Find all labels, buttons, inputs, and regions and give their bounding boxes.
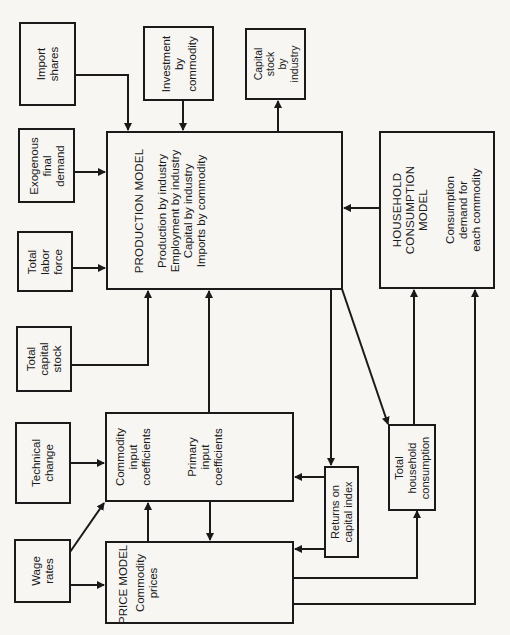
text-line: stock [264, 46, 276, 83]
label-exogenous: Exogenous final demand [27, 137, 66, 195]
box-total-labor-force: Total labor force [17, 231, 73, 292]
label-production-model: PRODUCTION MODEL Production by industry … [133, 148, 208, 273]
text-line: Capital by industry [182, 148, 195, 273]
edge-price-to-household [294, 290, 475, 604]
edge-capital-stock-to-production [71, 291, 148, 365]
text-line: by [172, 35, 185, 91]
text-line: final [40, 137, 53, 195]
label-investment: Investment by commodity [159, 35, 198, 91]
label-primary-input-coefficients: Primary input coefficients [186, 428, 225, 485]
text-line: Imports by commodity [195, 148, 208, 273]
box-price-model: PRICE MODEL Commodity prices [105, 541, 294, 624]
label-returns-on-capital: Returns on capital index [329, 481, 355, 542]
label-commodity-prices: Commodity prices [134, 553, 160, 611]
box-total-capital-stock: Total capital stock [16, 326, 72, 392]
text-line: Exogenous [27, 137, 40, 195]
text-line: Total [25, 342, 38, 375]
text-line: CONSUMPTION [404, 166, 417, 254]
box-total-household-consumption: Total household consumption [388, 424, 436, 511]
text-line: stock [51, 342, 64, 375]
label-capital-stock-by-industry: Capital stock by industry [252, 46, 300, 83]
text-line: coefficients [140, 428, 153, 486]
text-line: Consumption [444, 166, 457, 254]
text-line: Technical [30, 439, 43, 487]
price-model-title: PRICE MODEL [117, 545, 130, 624]
text-line: Primary [186, 428, 199, 485]
text-line: Import [35, 47, 48, 82]
text-line: consumption [419, 436, 432, 498]
box-production-model: PRODUCTION MODEL Production by industry … [106, 131, 343, 290]
text-line: Returns on [329, 481, 342, 542]
text-line: Employment by industry [169, 148, 182, 273]
text-line: demand for [457, 166, 470, 254]
text-line: input [199, 428, 212, 485]
text-line: capital [38, 342, 51, 375]
box-exogenous-final-demand: Exogenous final demand [18, 128, 75, 203]
text-line: Investment [159, 35, 172, 91]
text-line: PRICE MODEL [117, 545, 130, 624]
box-capital-stock-by-industry: Capital stock by industry [245, 28, 306, 100]
box-investment-by-commodity: Investment by commodity [143, 26, 214, 101]
text-line: Total [393, 436, 406, 498]
text-line: Capital [252, 46, 264, 83]
text-line: force [52, 249, 65, 275]
label-technical-change: Technical change [30, 439, 56, 487]
text-line: shares [48, 47, 61, 82]
text-line: capital index [342, 481, 355, 542]
text-line: coefficients [212, 428, 225, 485]
label-commodity-input-coefficients: Commodity input coefficients [114, 428, 153, 486]
box-household-consumption-model: HOUSEHOLD CONSUMPTION MODEL Consumption … [379, 131, 495, 289]
text-line: Wage [30, 556, 43, 586]
label-household-model: HOUSEHOLD CONSUMPTION MODEL Consumption … [391, 166, 483, 254]
edge-import-to-production [74, 75, 128, 130]
text-line: Total [26, 249, 39, 275]
label-wage-rates: Wage rates [30, 556, 56, 586]
text-line: prices [147, 553, 160, 611]
text-line: MODEL [417, 166, 430, 254]
text-line: industry [288, 46, 300, 83]
box-input-coefficients: Commodity input coefficients Primary inp… [105, 412, 294, 502]
text-line: commodity [185, 35, 198, 91]
label-import-shares: Import shares [35, 47, 61, 82]
box-technical-change: Technical change [15, 422, 71, 504]
text-line: HOUSEHOLD [391, 166, 404, 254]
box-import-shares: Import shares [19, 22, 76, 106]
box-wage-rates: Wage rates [14, 539, 71, 603]
production-model-title: PRODUCTION MODEL [133, 148, 146, 273]
text-line: demand [53, 137, 66, 195]
text-line: Commodity [134, 553, 147, 611]
text-line: labor [39, 249, 52, 275]
model-flow-diagram: Import shares Investment by commodity Ca… [0, 0, 510, 635]
edge-production-to-total-consumption [342, 289, 388, 424]
label-total-household-consumption: Total household consumption [393, 436, 432, 498]
label-total-capital-stock: Total capital stock [25, 342, 64, 375]
text-line: input [127, 428, 140, 486]
text-line: household [406, 436, 419, 498]
edge-wage-to-coefficients [70, 503, 104, 552]
box-returns-on-capital-index: Returns on capital index [324, 466, 359, 558]
text-line: each commodity [470, 166, 483, 254]
label-labor-force: Total labor force [26, 249, 65, 275]
text-line: Commodity [114, 428, 127, 486]
text-line: change [43, 439, 56, 487]
text-line: by [276, 46, 288, 83]
text-line: Production by industry [156, 148, 169, 273]
text-line: rates [43, 556, 56, 586]
